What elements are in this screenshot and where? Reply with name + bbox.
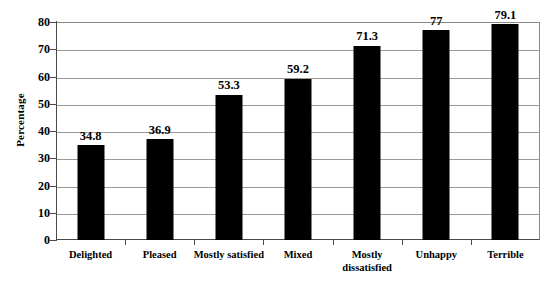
x-axis-tick-mark <box>333 240 334 245</box>
y-axis-tick-label: 40 <box>38 125 50 137</box>
bar-value-label: 36.9 <box>149 124 171 137</box>
x-axis-tick-mark <box>125 240 126 245</box>
bar-group[interactable]: 53.3 <box>194 22 263 240</box>
bar-group[interactable]: 77 <box>402 22 471 240</box>
x-axis-tick-mark <box>471 240 472 245</box>
bar[interactable] <box>284 79 311 240</box>
bar-value-label: 77 <box>430 15 443 28</box>
bar-value-label: 34.8 <box>80 130 102 143</box>
bar-value-label: 71.3 <box>356 30 378 43</box>
bar[interactable] <box>215 95 242 240</box>
bar-value-label: 53.3 <box>218 79 240 92</box>
bar-group[interactable]: 36.9 <box>125 22 194 240</box>
y-axis-tick-labels: 01020304050607080 <box>26 22 50 240</box>
y-axis-title-label: Percentage <box>14 93 26 147</box>
bar-group[interactable]: 34.8 <box>56 22 125 240</box>
y-axis-tick-label: 20 <box>38 180 50 192</box>
x-axis-tick-mark <box>402 240 403 245</box>
x-axis-tick-mark <box>263 240 264 245</box>
x-axis-tick-mark <box>194 240 195 245</box>
bar[interactable] <box>146 139 173 240</box>
bar[interactable] <box>423 30 450 240</box>
bar-value-label: 59.2 <box>287 63 309 76</box>
bar-group[interactable]: 71.3 <box>333 22 402 240</box>
bar-series: 34.836.953.359.271.37779.1 <box>56 22 540 240</box>
y-axis-tick-label: 50 <box>38 98 50 110</box>
bar[interactable] <box>354 46 381 240</box>
x-axis-category-labels: DelightedPleasedMostly satisfiedMixedMos… <box>56 249 540 283</box>
bar[interactable] <box>492 24 519 240</box>
bar-value-label: 79.1 <box>494 9 516 22</box>
y-axis-tick-label: 10 <box>38 207 50 219</box>
y-axis-tick-label: 60 <box>38 71 50 83</box>
y-axis-tick-label: 30 <box>38 152 50 164</box>
y-axis-tick-label: 80 <box>38 16 50 28</box>
bar-group[interactable]: 79.1 <box>471 22 540 240</box>
bar[interactable] <box>77 145 104 240</box>
bar-chart: Percentage 01020304050607080 34.836.953.… <box>0 0 556 284</box>
x-axis-category-label: Terrible <box>463 249 547 262</box>
x-axis-tick-marks <box>56 240 540 246</box>
y-axis-tick-label: 70 <box>38 43 50 55</box>
bar-group[interactable]: 59.2 <box>263 22 332 240</box>
